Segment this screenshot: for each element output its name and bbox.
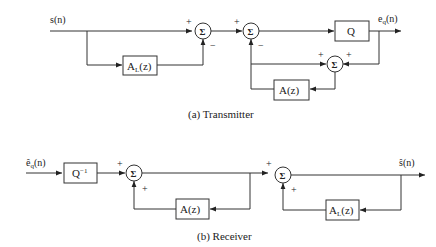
svg-text:Σ: Σ	[200, 27, 206, 37]
sign-plus: +	[117, 158, 123, 169]
receiver-caption: (b) Receiver	[197, 230, 252, 243]
short-term-predictor-block: A(z)	[274, 80, 309, 100]
svg-text:AL(z): AL(z)	[329, 204, 354, 218]
branch-to-long-term-predictor	[87, 31, 122, 65]
svg-text:Σ: Σ	[248, 27, 254, 37]
sign-plus: +	[186, 16, 192, 27]
receiver-short-term-predictor-block: A(z)	[176, 199, 209, 219]
sign-plus: +	[318, 49, 324, 60]
sign-plus: +	[142, 183, 148, 194]
svg-text:Σ: Σ	[332, 60, 338, 70]
receiver-long-term-predictor-block: AL(z)	[326, 200, 359, 220]
input-signal-label: s(n)	[50, 14, 66, 26]
receiver-summer-2: Σ	[275, 167, 291, 183]
long-term-predictor-output	[157, 39, 203, 65]
sign-plus: +	[346, 49, 352, 60]
sign-minus: −	[210, 40, 216, 51]
receiver-long-term-to-sum2-line	[283, 183, 326, 210]
transmitter-diagram: s(n) AL(z) Σ + − + Σ − Q	[50, 13, 401, 121]
receiver-output-label: ŝ(n)	[399, 157, 415, 169]
summer-1: Σ	[195, 23, 211, 39]
receiver-summer-1: Σ	[126, 165, 142, 181]
transmitter-caption: (a) Transmitter	[188, 108, 254, 121]
receiver-diagram: êq(n) Q−1 + Σ + A(z) + Σ + ŝ(n)	[26, 157, 425, 243]
svg-text:A(z): A(z)	[180, 203, 200, 216]
summer-3: Σ	[327, 56, 343, 72]
svg-text:Σ: Σ	[280, 171, 286, 181]
sign-plus: +	[291, 184, 297, 195]
svg-text:AL(z): AL(z)	[127, 60, 152, 74]
svg-text:Σ: Σ	[131, 169, 137, 179]
long-term-predictor-block: AL(z)	[123, 56, 157, 75]
receiver-feedback-line-2	[360, 175, 401, 210]
receiver-feedback-line-1	[210, 173, 250, 209]
receiver-input-label: êq(n)	[26, 157, 46, 170]
summer-2: Σ	[243, 23, 259, 39]
receiver-predictor-to-sum1-line	[134, 181, 176, 209]
svg-text:A(z): A(z)	[279, 84, 299, 97]
sign-minus: −	[258, 40, 264, 51]
output-signal-label: eq(n)	[378, 13, 398, 26]
sum3-to-predictor-line	[310, 72, 335, 89]
inverse-quantizer-block: Q−1	[64, 163, 97, 183]
sign-plus: +	[266, 158, 272, 169]
sign-plus: +	[234, 16, 240, 27]
quantizer-block: Q	[335, 21, 369, 41]
dpcm-block-diagram: s(n) AL(z) Σ + − + Σ − Q	[0, 0, 436, 247]
svg-text:Q: Q	[347, 25, 355, 37]
